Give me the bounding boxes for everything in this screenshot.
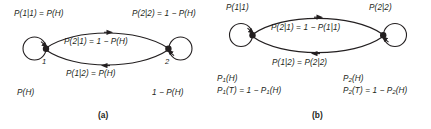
p1t-expression: (T) = 1 − P xyxy=(226,86,266,95)
node-1-initial-probability-tail-label: P1(T) = 1 − P1(H) xyxy=(217,86,281,95)
node-1-number: 1 xyxy=(42,57,46,66)
edge-1-to-2-label: P(2|1) = 1 − P(1|1) xyxy=(271,23,340,32)
panel-b-caption: (b) xyxy=(312,110,323,120)
p2-argument: (H) xyxy=(352,74,364,83)
node-1-initial-probability-head-label: P1(H) xyxy=(217,74,238,83)
edge-2-to-1-label: P(1|2) = P(H) xyxy=(66,69,116,78)
panel-a: P(1|1) = P(H) P(2|2) = 1 − P(H) P(2|1) =… xyxy=(0,0,215,129)
p1t-argument: (H) xyxy=(270,86,282,95)
p1-argument: (H) xyxy=(226,74,238,83)
edge-2-to-1 xyxy=(46,50,168,66)
p2t-expression: (T) = 1 − P xyxy=(352,86,392,95)
edge-1-to-2-label: P(2|1) = 1 − P(H) xyxy=(64,37,128,46)
p2t-argument: (H) xyxy=(396,86,408,95)
node-2-initial-probability-tail-label: P2(T) = 1 − P2(H) xyxy=(343,86,407,95)
node-2-number: 2 xyxy=(165,57,169,66)
panel-a-caption: (a) xyxy=(98,110,108,120)
panel-b: P(1|1) P(2|2) P(2|1) = 1 − P(1|1) P(1|2)… xyxy=(215,0,431,129)
node-1-self-loop-label: P(1|1) xyxy=(226,3,249,12)
node-2-initial-probability-label: 1 − P(H) xyxy=(152,88,184,97)
node-2-initial-probability-head-label: P2(H) xyxy=(343,74,364,83)
node-1-dot xyxy=(249,32,255,38)
node-1-initial-probability-label: P(H) xyxy=(17,88,34,97)
node-2-dot xyxy=(380,32,386,38)
node-2-self-loop xyxy=(169,37,192,60)
figure-markov-chain-diagrams: P(1|1) = P(H) P(2|2) = 1 − P(H) P(2|1) =… xyxy=(0,0,431,129)
node-1-self-loop xyxy=(230,24,253,47)
node-2-self-loop-label: P(2|2) xyxy=(369,3,392,12)
node-2-self-loop xyxy=(384,24,407,47)
edge-2-to-1-label: P(1|2) = P(2|2) xyxy=(272,58,327,67)
node-2-self-loop-label: P(2|2) = 1 − P(H) xyxy=(132,9,196,18)
edge-2-to-1 xyxy=(253,37,384,54)
node-1-dot xyxy=(43,46,49,52)
node-2-dot xyxy=(165,46,171,52)
node-1-self-loop-label: P(1|1) = P(H) xyxy=(14,9,64,18)
